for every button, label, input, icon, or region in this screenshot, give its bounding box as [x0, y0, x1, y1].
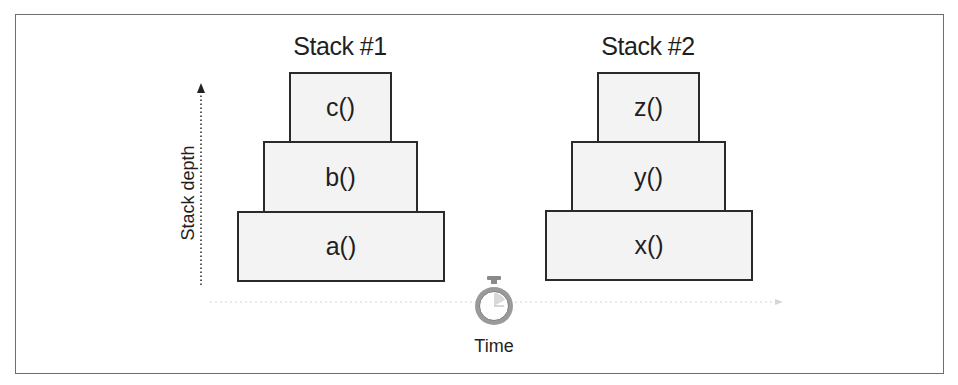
time-label: Time — [474, 336, 513, 357]
stopwatch-icon — [475, 276, 513, 325]
axes-overlay — [0, 0, 958, 385]
stack-depth-label: Stack depth — [178, 145, 199, 240]
